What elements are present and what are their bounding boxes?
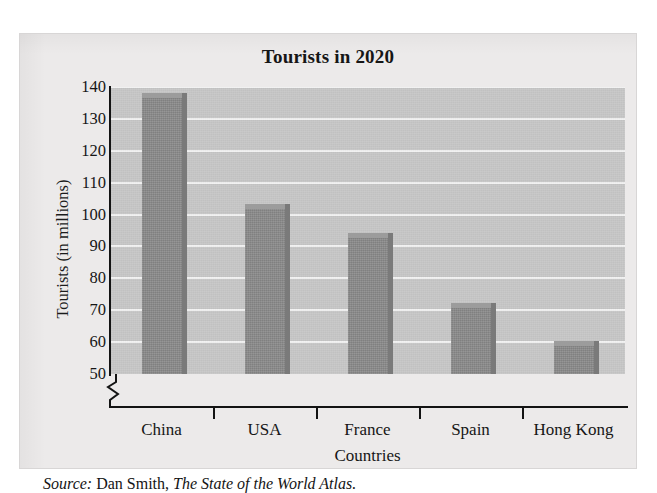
y-tick-label: 100 — [66, 207, 106, 224]
x-tick-label-spain: Spain — [419, 420, 522, 440]
bar-top-face — [142, 93, 182, 98]
y-tick-label: 80 — [66, 270, 106, 287]
y-tick-label: 110 — [66, 175, 106, 192]
axis-break-zigzag-icon — [102, 374, 124, 408]
x-axis-title: Countries — [110, 446, 625, 466]
bar-side-face — [182, 93, 187, 374]
bar-hong-kong — [554, 345, 594, 374]
y-tick-label: 60 — [66, 334, 106, 351]
bar-top-face — [245, 204, 285, 209]
source-label: Source: — [43, 475, 92, 492]
x-tick-label-hong-kong: Hong Kong — [522, 420, 625, 440]
x-axis-tick — [522, 408, 524, 419]
gridline — [110, 118, 625, 120]
y-axis-tick-labels: 1401301201101009080706050 — [56, 34, 106, 468]
plot-area — [110, 87, 625, 374]
bar-face — [142, 97, 182, 374]
y-tick-label: 140 — [66, 79, 106, 96]
bar-face — [348, 237, 388, 374]
y-tick-label: 50 — [66, 366, 106, 383]
y-tick-label: 70 — [66, 302, 106, 319]
y-tick-label: 90 — [66, 238, 106, 255]
bar-top-face — [451, 303, 491, 308]
y-tick-label: 130 — [66, 111, 106, 128]
chart-title: Tourists in 2020 — [20, 46, 636, 68]
source-caption: Source: Dan Smith, The State of the Worl… — [43, 475, 356, 493]
bar-face — [554, 345, 594, 374]
bar-side-face — [388, 233, 393, 374]
gridline — [110, 182, 625, 184]
y-tick-label: 120 — [66, 143, 106, 160]
bar-france — [348, 237, 388, 374]
bar-spain — [451, 307, 491, 374]
gridline — [110, 150, 625, 152]
source-author: Dan Smith, — [96, 475, 169, 492]
bar-top-face — [348, 233, 388, 238]
gridline — [110, 87, 625, 88]
x-tick-label-france: France — [316, 420, 419, 440]
figure-frame: Tourists in 2020 Tourists (in millions) … — [19, 33, 637, 469]
bar-china — [142, 97, 182, 374]
bar-face — [245, 208, 285, 374]
y-axis-line — [109, 86, 111, 376]
source-work-title: The State of the World Atlas. — [173, 475, 356, 492]
bar-side-face — [285, 204, 290, 374]
bar-top-face — [554, 341, 594, 346]
x-tick-label-china: China — [110, 420, 213, 440]
bar-side-face — [594, 341, 599, 374]
x-axis-tick — [316, 408, 318, 419]
x-axis-tick — [213, 408, 215, 419]
bar-side-face — [491, 303, 496, 374]
bar-face — [451, 307, 491, 374]
gridline — [110, 214, 625, 216]
x-tick-label-usa: USA — [213, 420, 316, 440]
x-axis-tick — [419, 408, 421, 419]
x-axis-line — [109, 406, 628, 408]
bar-usa — [245, 208, 285, 374]
